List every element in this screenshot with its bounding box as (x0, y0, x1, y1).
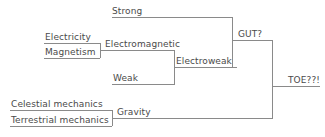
node-label-magnetism: Magnetism (45, 47, 96, 57)
wire-gut (237, 40, 272, 86)
node-label-toe: TOE??! (288, 75, 320, 85)
wire-electromagnetic (104, 50, 174, 67)
node-label-gravity: Gravity (117, 107, 151, 117)
node-label-gut: GUT? (238, 29, 262, 39)
node-label-electroweak: Electroweak (176, 56, 232, 66)
node-label-strong: Strong (112, 6, 142, 16)
node-label-electromagnetic: Electromagnetic (105, 39, 180, 49)
wire-gut-riser (232, 40, 237, 67)
node-label-electricity: Electricity (45, 32, 91, 42)
node-label-terrestrial-mechanics: Terrestrial mechanics (11, 115, 109, 125)
node-label-weak: Weak (113, 73, 138, 83)
node-label-celestial-mechanics: Celestial mechanics (11, 99, 103, 109)
force-unification-diagram: Strong Electricity Magnetism Electromagn… (0, 0, 325, 137)
